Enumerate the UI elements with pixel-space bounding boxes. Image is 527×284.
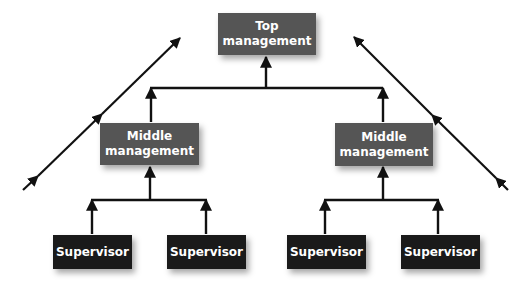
supervisor-box-2: Supervisor: [167, 235, 246, 269]
left-diagonal-arrow: [23, 38, 180, 190]
middle-management-box-left: Middle management: [100, 123, 199, 165]
middle-management-line2: management: [340, 145, 429, 160]
org-hierarchy-diagram: Top management Middle management Middle …: [0, 0, 527, 284]
middle-management-line1: Middle: [340, 130, 429, 145]
top-management-line2: management: [223, 34, 312, 49]
supervisor-label: Supervisor: [170, 245, 243, 260]
top-management-line1: Top: [223, 19, 312, 34]
middle-management-line1: Middle: [105, 129, 194, 144]
middle-management-box-right: Middle management: [335, 123, 433, 166]
right-diagonal-arrow: [354, 37, 508, 190]
top-management-box: Top management: [218, 13, 316, 55]
middle-management-line2: management: [105, 144, 194, 159]
supervisor-box-4: Supervisor: [401, 235, 480, 269]
supervisor-label: Supervisor: [290, 245, 363, 260]
supervisor-label: Supervisor: [56, 245, 129, 260]
supervisor-box-1: Supervisor: [53, 235, 132, 269]
supervisor-label: Supervisor: [404, 245, 477, 260]
supervisor-box-3: Supervisor: [287, 235, 366, 269]
